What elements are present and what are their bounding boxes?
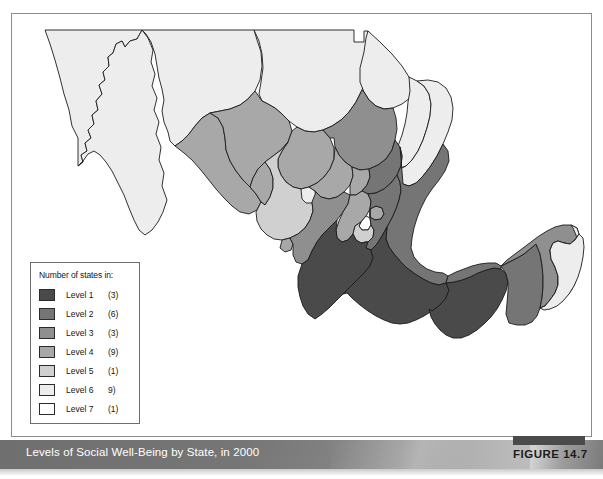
legend-label-level-2: Level 2 xyxy=(66,309,108,319)
legend-count-level-3: (3) xyxy=(108,328,118,338)
legend-count-level-7: (1) xyxy=(108,404,118,414)
legend-row-level-6[interactable]: Level 6 9) xyxy=(31,380,139,399)
state-coahuila[interactable] xyxy=(360,31,414,109)
legend-row-level-4[interactable]: Level 4 (9) xyxy=(31,342,139,361)
legend-swatch-level-1 xyxy=(39,289,55,301)
map-panel: Number of states in: Level 1 (3) Level 2… xyxy=(11,13,592,437)
figure-caption-text: Levels of Social Well-Being by State, in… xyxy=(26,446,259,458)
legend-count-level-5: (1) xyxy=(108,366,118,376)
legend-count-level-1: (3) xyxy=(108,290,118,300)
legend-label-level-6: Level 6 xyxy=(66,385,108,395)
figure-tag: FIGURE 14.7 xyxy=(513,436,593,472)
map-legend: Number of states in: Level 1 (3) Level 2… xyxy=(30,262,140,424)
legend-label-level-4: Level 4 xyxy=(66,347,108,357)
figure-tag-label: FIGURE 14.7 xyxy=(513,448,593,460)
legend-swatch-level-5 xyxy=(39,365,55,377)
legend-row-level-3[interactable]: Level 3 (3) xyxy=(31,323,139,342)
legend-row-level-7[interactable]: Level 7 (1) xyxy=(31,399,139,418)
legend-label-level-1: Level 1 xyxy=(66,290,108,300)
caption-sheen-decoration xyxy=(330,440,530,469)
legend-swatch-level-7 xyxy=(39,403,55,415)
legend-row-level-1[interactable]: Level 1 (3) xyxy=(31,285,139,304)
legend-row-level-2[interactable]: Level 2 (6) xyxy=(31,304,139,323)
legend-count-level-4: (9) xyxy=(108,347,118,357)
legend-label-level-5: Level 5 xyxy=(66,366,108,376)
figure-root: Number of states in: Level 1 (3) Level 2… xyxy=(0,0,603,479)
legend-swatch-level-2 xyxy=(39,308,55,320)
legend-label-level-7: Level 7 xyxy=(66,404,108,414)
legend-count-level-6: 9) xyxy=(108,385,116,395)
legend-row-level-5[interactable]: Level 5 (1) xyxy=(31,361,139,380)
legend-swatch-level-6 xyxy=(39,384,55,396)
legend-swatch-level-4 xyxy=(39,346,55,358)
legend-swatch-level-3 xyxy=(39,327,55,339)
legend-title: Number of states in: xyxy=(39,270,139,280)
figure-tag-accent-bar xyxy=(513,436,585,445)
legend-label-level-3: Level 3 xyxy=(66,328,108,338)
legend-count-level-2: (6) xyxy=(108,309,118,319)
